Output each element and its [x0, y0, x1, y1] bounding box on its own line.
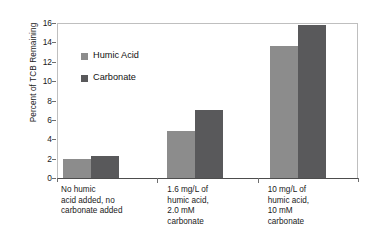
y-axis-tick-mark — [52, 178, 56, 179]
y-axis-tick-14: 14 — [43, 36, 52, 48]
y-axis-tick-12: 12 — [43, 56, 52, 68]
legend-item-carbonate: Carbonate — [81, 72, 201, 94]
x-axis-label-line: No humic — [61, 185, 122, 196]
x-axis-label-line: acid added, no — [61, 196, 122, 207]
x-axis-label-group-3: 10 mg/L ofhumic acid,10 mMcarbonate — [268, 185, 309, 227]
bar-humic-acid — [63, 159, 91, 178]
x-axis-label-group-2: 1.6 mg/L ofhumic acid,2.0 mMcarbonate — [167, 185, 208, 227]
x-axis-label-line: carbonate — [268, 217, 309, 228]
y-axis-tick-mark — [52, 139, 56, 140]
x-axis-label-line: humic acid, — [268, 196, 309, 207]
bar-carbonate — [298, 25, 326, 178]
y-axis-tick-mark — [52, 120, 56, 121]
y-axis-tick-mark — [52, 81, 56, 82]
x-axis-tick-mark — [358, 178, 359, 182]
y-axis-tick-mark — [52, 62, 56, 63]
bars-layer — [57, 23, 358, 178]
y-axis-tick-mark — [52, 101, 56, 102]
bar-group — [258, 23, 358, 178]
x-axis-label-line: humic acid, — [167, 196, 208, 207]
legend-swatch-icon-carbonate — [81, 75, 88, 82]
bar-carbonate — [91, 156, 119, 178]
x-axis-label-line: 10 mM — [268, 206, 309, 217]
y-axis-tick-labels: 1614121086420 — [28, 18, 57, 184]
bar-carbonate — [195, 110, 223, 178]
y-axis-tick-mark — [52, 42, 56, 43]
y-axis-tick-mark — [52, 23, 56, 24]
bar-group — [57, 23, 157, 178]
legend-label-humic-acid: Humic Acid — [93, 49, 139, 62]
legend-swatch-icon-humic-acid — [81, 53, 88, 60]
x-axis-label-line: 1.6 mg/L of — [167, 185, 208, 196]
x-axis-label-line: carbonate added — [61, 206, 122, 217]
x-axis-line — [57, 178, 359, 179]
x-axis-label-line: 2.0 mM — [167, 206, 208, 217]
x-axis-category-labels: No humicacid added, nocarbonate added1.6… — [57, 185, 358, 241]
y-axis-tick-mark — [52, 159, 56, 160]
y-axis-tick-10: 10 — [43, 75, 52, 87]
x-axis-tick-mark — [157, 178, 158, 183]
y-axis-tick-16: 16 — [43, 17, 52, 29]
bar-group — [157, 23, 257, 178]
legend-label-carbonate: Carbonate — [93, 71, 136, 84]
bar-chart-figure: Percent of TCB Remaining 1614121086420 N… — [0, 0, 368, 243]
chart-legend: Humic Acid Carbonate — [81, 50, 201, 94]
legend-item-humic-acid: Humic Acid — [81, 50, 201, 72]
bar-humic-acid — [270, 46, 298, 178]
x-axis-label-line: carbonate — [167, 217, 208, 228]
x-axis-label-group-1: No humicacid added, nocarbonate added — [61, 185, 122, 217]
x-axis-label-line: 10 mg/L of — [268, 185, 309, 196]
bar-humic-acid — [167, 131, 195, 178]
x-axis-tick-mark — [258, 178, 259, 183]
x-axis-tick-mark — [57, 178, 58, 182]
